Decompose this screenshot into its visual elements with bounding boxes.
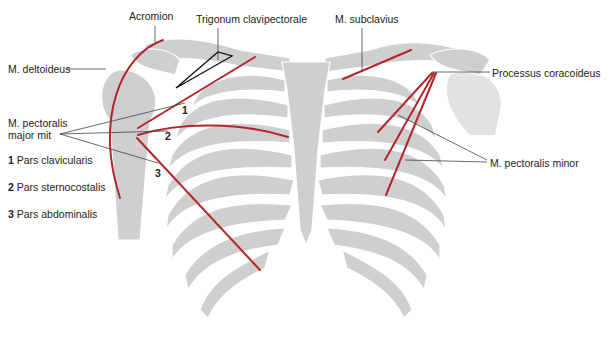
label-deltoideus: M. deltoideus <box>8 63 70 75</box>
label-pectoralis-major-2: major mit <box>8 129 51 141</box>
marker-2: 2 <box>165 130 171 142</box>
marker-3: 3 <box>155 167 161 179</box>
legend-number: 1 <box>8 154 14 166</box>
legend-text: Pars abdominalis <box>17 208 98 220</box>
label-trigonum-clavipectorale: Trigonum clavipectorale <box>196 13 307 25</box>
marker-1: 1 <box>182 104 188 116</box>
legend-item-3: 3 Pars abdominalis <box>8 208 97 220</box>
label-acromion: Acromion <box>129 10 173 22</box>
legend-number: 2 <box>8 181 14 193</box>
label-pectoralis-minor: M. pectoralis minor <box>490 157 579 169</box>
thorax-diagram <box>0 0 614 350</box>
legend-number: 3 <box>8 208 14 220</box>
label-subclavius: M. subclavius <box>335 13 399 25</box>
sternum <box>282 62 330 245</box>
legend-text: Pars clavicularis <box>17 154 93 166</box>
ribs-right <box>318 75 447 318</box>
label-pectoralis-major-1: M. pectoralis <box>8 117 68 129</box>
legend-text: Pars sternocostalis <box>17 181 106 193</box>
legend-item-1: 1 Pars clavicularis <box>8 154 93 166</box>
label-processus-coracoideus: Processus coracoideus <box>492 67 601 79</box>
right-humerus <box>447 72 501 135</box>
legend-item-2: 2 Pars sternocostalis <box>8 181 105 193</box>
